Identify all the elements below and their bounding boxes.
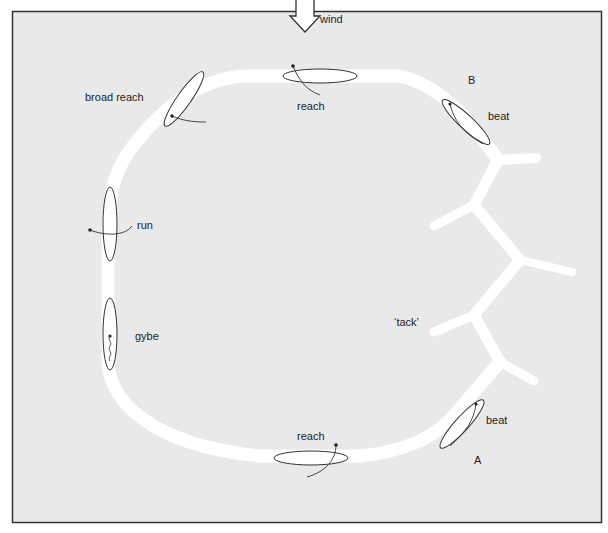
label-beat-top: beat xyxy=(488,110,509,122)
label-gybe: gybe xyxy=(135,330,159,342)
wind-label: wind xyxy=(319,13,343,25)
label-point-a: A xyxy=(474,454,482,466)
label-point-b: B xyxy=(468,74,475,86)
label-tack: ‘tack’ xyxy=(394,316,419,328)
sailing-diagram: wind xyxy=(0,0,608,533)
label-broad-reach: broad reach xyxy=(85,91,144,103)
label-run: run xyxy=(137,219,153,231)
label-reach-top: reach xyxy=(297,100,325,112)
label-beat-bottom: beat xyxy=(486,414,507,426)
sail-gybe xyxy=(103,298,117,370)
label-reach-bottom: reach xyxy=(297,430,325,442)
